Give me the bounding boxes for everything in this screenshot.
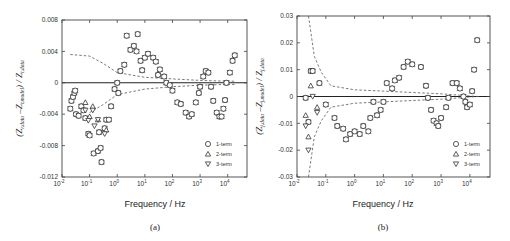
x-axis-label: Frequency / Hz [352,199,414,209]
figure-canvas: 10-210-11001011021031040.0080.0040-0.004… [0,0,510,241]
y-tick-label: -0.02 [278,146,293,153]
legend-item: 3-term [216,161,232,167]
x-tick-label: 104 [462,179,472,187]
x-tick-label: 103 [192,179,202,187]
legend-item: 1-term [464,141,480,147]
x-tick-label: 101 [376,179,386,187]
y-tick-label: -0.008 [40,142,59,149]
y-tick-label: 0.01 [280,66,293,73]
series-1-term [68,32,238,165]
y-tick-label: 0 [54,79,58,86]
y-tick-label: 0.02 [280,39,293,46]
lower-bound-curve [309,97,479,178]
y-axis-label: (Zr,data –Zr,model) / Zr,data [14,60,25,137]
panel-label: (b) [378,222,389,232]
legend: 1-term2-term3-term [453,141,480,167]
y-tick-label: 0.008 [42,16,59,23]
legend-item: 3-term [464,161,480,167]
x-tick-label: 100 [347,179,357,187]
panel-label: (a) [150,222,160,232]
x-axis-label: Frequency / Hz [124,199,186,209]
x-tick-label: 10-1 [81,179,93,187]
y-tick-label: 0 [289,93,293,100]
x-tick-label: 102 [165,179,175,187]
series-1-term [303,38,480,142]
y-axis-label: (Zj,data –Zj,model) / Zj,data [254,58,265,135]
chart-panel-a: 10-210-11001011021031040.0080.0040-0.004… [14,16,247,232]
series-3-term [303,94,320,152]
y-tick-label: -0.012 [40,173,59,180]
y-tick-label: -0.01 [278,120,293,127]
x-tick-label: 10-1 [317,179,329,187]
legend-item: 2-term [216,151,232,157]
x-tick-label: 101 [137,179,147,187]
legend-item: 1-term [216,141,232,147]
x-tick-label: 103 [433,179,443,187]
chart-panel-b: 10-210-11001011021031040.030.020.010-0.0… [254,12,490,232]
y-tick-label: -0.004 [40,110,59,117]
x-tick-label: 104 [220,179,230,187]
legend: 1-term2-term3-term [205,141,232,167]
x-tick-label: 100 [109,179,119,187]
y-tick-label: 0.03 [280,12,293,19]
x-tick-label: 102 [404,179,414,187]
legend-item: 2-term [464,151,480,157]
y-tick-label: 0.004 [42,48,59,55]
y-tick-label: -0.03 [278,173,293,180]
